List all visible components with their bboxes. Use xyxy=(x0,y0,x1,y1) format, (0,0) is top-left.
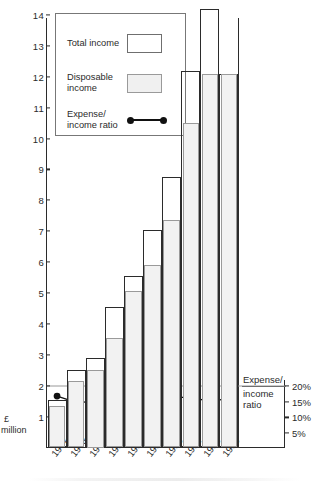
legend-item-total-income: Total income xyxy=(67,34,179,53)
y-axis-tick-mark xyxy=(46,231,50,232)
legend-swatch-disposable-income xyxy=(127,74,162,93)
right-axis-tick-label: 15% xyxy=(292,396,311,407)
y-axis-tick-mark xyxy=(46,323,50,324)
bar-disposable-income xyxy=(183,123,200,447)
bar-disposable-income xyxy=(202,74,219,448)
y-axis-tick-label: 9 xyxy=(38,164,44,175)
y-axis-tick-label: 4 xyxy=(38,318,44,329)
y-axis-tick-label: 8 xyxy=(38,195,44,206)
y-axis-tick-mark xyxy=(46,14,50,15)
y-axis-tick-mark xyxy=(46,76,50,77)
y-axis-tick-mark xyxy=(46,45,50,46)
y-axis-tick-label: 7 xyxy=(38,226,44,237)
right-axis-tick-label: 10% xyxy=(292,412,311,423)
y-axis-tick-label: 12 xyxy=(33,71,44,82)
right-axis-tick-label: 20% xyxy=(292,381,311,392)
y-axis-tick-label: 11 xyxy=(34,102,44,113)
y-axis-tick-mark xyxy=(46,262,50,263)
y-axis-tick-label: 2 xyxy=(38,380,44,391)
legend-label-disposable-income: Disposable income xyxy=(67,72,127,94)
y-axis-tick-mark xyxy=(46,385,50,386)
page-footer-text-fragment xyxy=(28,478,300,481)
legend-item-expense-ratio: Expense/ income ratio xyxy=(67,109,179,131)
right-axis-caption-line1: Expense/ xyxy=(243,375,285,386)
y-axis-tick-mark xyxy=(46,200,50,201)
y-axis-tick-mark xyxy=(46,354,50,355)
y-axis-unit-line1: £ xyxy=(4,414,9,424)
y-axis-tick-label: 3 xyxy=(38,349,44,360)
right-axis-tick-label: 5% xyxy=(292,428,306,439)
y-axis-tick-mark xyxy=(46,138,50,139)
legend-label-ratio-line1: Expense/ xyxy=(67,109,106,119)
legend-label-disposable-line1: Disposable xyxy=(67,72,113,82)
y-axis-tick-mark xyxy=(46,292,50,293)
bar-disposable-income xyxy=(49,406,66,448)
chart-legend: Total income Disposable income Expense/ … xyxy=(55,13,186,136)
y-axis-ticks: 1234567891011121314 xyxy=(0,0,44,485)
legend-marker-ratio-line xyxy=(127,115,167,125)
bar-disposable-income xyxy=(144,265,161,447)
y-axis-unit-line2: million xyxy=(1,425,27,435)
bar-disposable-income xyxy=(163,220,180,447)
right-axis-tick-mark xyxy=(285,433,289,434)
y-axis-tick-mark xyxy=(46,107,50,108)
y-axis-tick-label: 5 xyxy=(38,288,44,299)
right-axis-tick-mark xyxy=(285,401,289,402)
bar-disposable-income xyxy=(125,291,142,447)
bar-disposable-income xyxy=(68,381,85,447)
y-axis-tick-label: 13 xyxy=(33,40,44,51)
bar-disposable-income xyxy=(106,338,123,448)
right-axis-caption-line2: income xyxy=(243,389,285,400)
legend-item-disposable-income: Disposable income xyxy=(67,72,179,94)
y-axis-tick-label: 14 xyxy=(33,9,44,20)
right-caption-rule xyxy=(242,386,286,387)
legend-swatch-total-income xyxy=(127,34,162,53)
y-axis-tick-label: 1 xyxy=(38,411,44,422)
y-axis-tick-label: 6 xyxy=(38,257,44,268)
legend-label-ratio-line2: income ratio xyxy=(67,120,118,130)
legend-label-total-income: Total income xyxy=(67,38,127,49)
bar-disposable-income xyxy=(87,370,104,447)
legend-label-expense-ratio: Expense/ income ratio xyxy=(67,109,127,131)
y-axis-tick-mark xyxy=(46,169,50,170)
chart-figure: 1234567891011121314 £ million 1977197819… xyxy=(0,0,326,485)
bar-disposable-income xyxy=(221,74,238,448)
y-axis-tick-label: 10 xyxy=(33,133,44,144)
right-axis-caption-line3: ratio xyxy=(243,400,285,411)
legend-label-disposable-line2: income xyxy=(67,83,97,93)
right-axis-tick-mark xyxy=(285,417,289,418)
